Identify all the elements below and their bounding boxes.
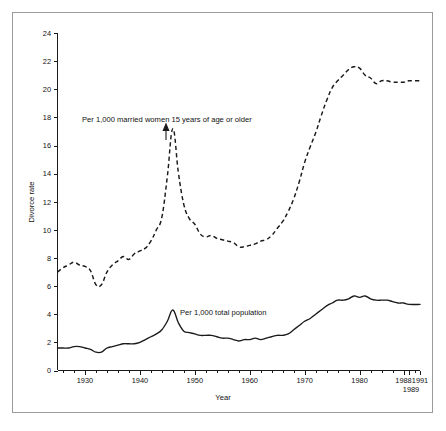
annotation-arrow-icon	[163, 124, 168, 140]
y-tick-label: 4	[47, 310, 51, 319]
axes-group	[58, 33, 421, 371]
y-axis-title: Divorce rate	[27, 182, 36, 223]
x-tick-label: 1989	[403, 385, 419, 394]
y-tick-label: 0	[47, 366, 51, 375]
y-tick-label: 8	[47, 254, 51, 263]
series-line-total-population	[58, 296, 421, 353]
x-tick-label: 1970	[296, 376, 312, 385]
x-axis-title: Year	[215, 393, 231, 402]
y-tick-label: 24	[43, 29, 51, 38]
y-tick-label: 12	[43, 198, 51, 207]
x-tick-label: 1930	[77, 376, 93, 385]
y-tick-label: 10	[43, 226, 51, 235]
annotation-married-women: Per 1,000 married women 15 years of age …	[82, 115, 252, 124]
x-tick-group: 193019401950196019701980198819891991	[63, 371, 428, 394]
y-tick-group: 024681012141618202224	[43, 29, 58, 376]
y-tick-label: 6	[47, 282, 51, 291]
series-line-married-women	[58, 67, 421, 287]
divorce-rate-line-chart: 024681012141618202224 193019401950196019…	[0, 0, 446, 431]
y-tick-label: 2	[47, 338, 51, 347]
x-tick-label: 1950	[187, 376, 203, 385]
figure-root: 024681012141618202224 193019401950196019…	[0, 0, 446, 431]
y-tick-label: 16	[43, 141, 51, 150]
y-tick-label: 18	[43, 113, 51, 122]
x-tick-label: 1960	[242, 376, 258, 385]
y-tick-label: 14	[43, 169, 51, 178]
y-tick-label: 22	[43, 57, 51, 66]
x-tick-label: 1991	[412, 376, 428, 385]
annotation-total-population: Per 1,000 total population	[180, 308, 267, 317]
y-tick-label: 20	[43, 85, 51, 94]
x-tick-label: 1980	[351, 376, 367, 385]
x-tick-label: 1940	[132, 376, 148, 385]
